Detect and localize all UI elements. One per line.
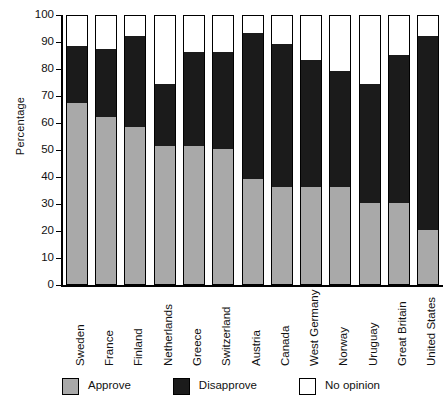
- legend-item-disapprove[interactable]: Disapprove: [173, 378, 257, 395]
- bar-france[interactable]: [95, 15, 117, 285]
- bar-segment-approve: [330, 187, 350, 284]
- y-tick-label: 70: [41, 90, 54, 102]
- bar-segment-disapprove: [389, 55, 409, 204]
- bar-segment-no-opinion: [360, 15, 380, 84]
- bar-segment-no-opinion: [96, 15, 116, 49]
- chart-legend: ApproveDisapproveNo opinion: [62, 374, 447, 398]
- bar-segment-no-opinion: [418, 15, 438, 36]
- x-label-text: West Germany: [309, 290, 321, 366]
- bar-finland[interactable]: [124, 15, 146, 285]
- bar-segment-approve: [360, 203, 380, 284]
- y-tick-label: 90: [41, 36, 54, 48]
- bar-west-germany[interactable]: [300, 15, 322, 285]
- legend-label: Approve: [88, 380, 131, 392]
- bar-sweden[interactable]: [66, 15, 88, 285]
- y-tick-label: 40: [41, 171, 54, 183]
- bar-segment-disapprove: [184, 52, 204, 147]
- y-tick-mark: [56, 231, 61, 232]
- bars-layer: [62, 15, 443, 286]
- bar-switzerland[interactable]: [212, 15, 234, 285]
- no-opinion-swatch: [299, 378, 316, 395]
- bar-segment-no-opinion: [389, 15, 409, 55]
- bar-segment-disapprove: [418, 36, 438, 230]
- y-tick-label: 0: [48, 279, 54, 291]
- bar-netherlands[interactable]: [154, 15, 176, 285]
- x-label-text: Canada: [280, 326, 292, 366]
- bar-segment-approve: [155, 146, 175, 284]
- bar-segment-disapprove: [243, 33, 263, 179]
- bar-segment-disapprove: [125, 36, 145, 128]
- x-label-text: United States: [426, 297, 438, 366]
- legend-item-no-opinion[interactable]: No opinion: [299, 378, 380, 395]
- x-label-text: France: [104, 330, 116, 366]
- bar-segment-approve: [184, 146, 204, 284]
- y-tick-label: 100: [35, 9, 54, 21]
- y-tick-mark: [56, 204, 61, 205]
- bar-segment-disapprove: [301, 60, 321, 187]
- bar-segment-disapprove: [96, 49, 116, 117]
- bar-segment-disapprove: [67, 46, 87, 103]
- y-tick-mark: [56, 258, 61, 259]
- bar-segment-no-opinion: [184, 15, 204, 52]
- bar-segment-approve: [243, 179, 263, 284]
- bar-greece[interactable]: [183, 15, 205, 285]
- x-label-text: Netherlands: [163, 304, 175, 366]
- x-axis-category-labels: SwedenFranceFinlandNetherlandsGreeceSwit…: [62, 290, 443, 368]
- x-label-text: Austria: [251, 330, 263, 366]
- bar-segment-approve: [301, 187, 321, 284]
- approve-swatch: [62, 378, 79, 395]
- y-tick-mark: [56, 69, 61, 70]
- y-tick-mark: [56, 177, 61, 178]
- x-label-text: Sweden: [75, 324, 87, 366]
- bar-segment-no-opinion: [155, 15, 175, 84]
- x-label-text: Great Britain: [397, 301, 409, 366]
- y-tick-label: 50: [41, 144, 54, 156]
- bar-segment-no-opinion: [301, 15, 321, 60]
- bar-great-britain[interactable]: [388, 15, 410, 285]
- bar-segment-no-opinion: [125, 15, 145, 36]
- x-label-text: Greece: [192, 328, 204, 366]
- x-label-text: Uruguay: [368, 323, 380, 366]
- bar-segment-approve: [67, 103, 87, 284]
- bar-canada[interactable]: [271, 15, 293, 285]
- y-tick-mark: [56, 123, 61, 124]
- y-tick-label: 60: [41, 117, 54, 129]
- bar-segment-disapprove: [213, 52, 233, 149]
- bar-segment-no-opinion: [243, 15, 263, 33]
- bar-segment-no-opinion: [213, 15, 233, 52]
- bar-austria[interactable]: [242, 15, 264, 285]
- y-tick-mark: [56, 96, 61, 97]
- legend-label: Disapprove: [199, 380, 257, 392]
- y-tick-label: 20: [41, 225, 54, 237]
- x-label-text: Norway: [338, 327, 350, 366]
- legend-item-approve[interactable]: Approve: [62, 378, 131, 395]
- y-tick-mark: [56, 15, 61, 16]
- bar-segment-no-opinion: [330, 15, 350, 71]
- y-tick-label: 10: [41, 252, 54, 264]
- y-tick-mark: [56, 150, 61, 151]
- bar-segment-disapprove: [155, 84, 175, 146]
- bar-segment-disapprove: [360, 84, 380, 203]
- bar-segment-disapprove: [330, 71, 350, 187]
- legend-label: No opinion: [325, 380, 380, 392]
- x-label-text: Switzerland: [221, 307, 233, 366]
- bar-segment-approve: [418, 230, 438, 284]
- y-tick-mark: [56, 42, 61, 43]
- x-label-text: Finland: [133, 328, 145, 366]
- bar-uruguay[interactable]: [359, 15, 381, 285]
- bar-segment-approve: [213, 149, 233, 284]
- y-tick-label: 30: [41, 198, 54, 210]
- y-axis-title: Percentage: [14, 66, 26, 186]
- disapprove-swatch: [173, 378, 190, 395]
- bar-segment-disapprove: [272, 44, 292, 187]
- y-tick-label: 80: [41, 63, 54, 75]
- stacked-bar-chart: Percentage 0102030405060708090100 Sweden…: [0, 0, 447, 408]
- bar-norway[interactable]: [329, 15, 351, 285]
- bar-united-states[interactable]: [417, 15, 439, 285]
- plot-area: 0102030405060708090100: [61, 15, 442, 286]
- bar-segment-no-opinion: [272, 15, 292, 44]
- bar-segment-approve: [125, 127, 145, 284]
- bar-segment-approve: [272, 187, 292, 284]
- y-tick-mark: [56, 285, 61, 286]
- bar-segment-approve: [96, 117, 116, 284]
